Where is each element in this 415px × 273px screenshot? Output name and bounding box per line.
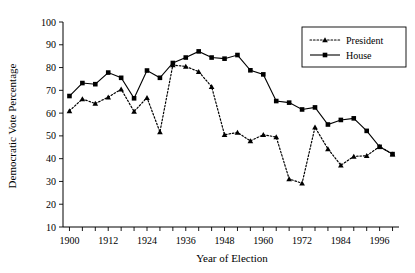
legend-box [302,27,406,67]
legend-label-president: President [346,35,383,46]
series-plot-area [67,49,396,185]
data-point [300,107,305,112]
data-point [196,49,201,54]
data-point [222,56,227,61]
data-point [106,70,111,75]
x-tick-label: 1984 [331,235,351,246]
data-point [364,129,369,134]
data-point [287,100,292,105]
data-point [390,152,395,157]
data-point [274,99,279,104]
x-tick-label: 1912 [98,235,118,246]
data-point [351,116,356,121]
y-tick-label: 50 [46,130,56,141]
legend-label-house: House [346,50,372,61]
data-point [351,154,357,159]
y-tick-label: 100 [41,17,56,28]
data-point [105,94,111,99]
data-point [80,81,85,86]
data-point [261,72,266,77]
y-tick-label: 70 [46,85,56,96]
data-point [286,176,292,181]
data-point [67,108,73,113]
data-point [377,145,382,150]
x-tick-label: 1900 [59,235,79,246]
y-tick-label: 90 [46,39,56,50]
y-tick-label: 80 [46,62,56,73]
data-point [158,76,163,81]
x-tick-label: 1924 [137,235,157,246]
election-vote-line-chart: 102030405060708090100 190019121924193619… [0,0,415,273]
data-point [93,82,98,87]
y-tick-label: 20 [46,199,56,210]
y-tick-label: 40 [46,153,56,164]
x-tick-label: 1948 [215,235,235,246]
data-point [299,181,305,186]
data-point [313,105,318,110]
data-point [235,53,240,58]
data-point [157,129,163,134]
data-point [209,84,215,89]
data-point [119,76,124,81]
data-point [312,125,318,130]
data-point [145,68,150,73]
x-tick-label: 1996 [370,235,390,246]
x-tick-label: 1936 [176,235,196,246]
data-point [260,132,266,137]
data-point [132,96,137,101]
data-point [144,95,150,100]
series-line-president [69,65,392,183]
chart-legend: PresidentHouse [302,27,406,67]
data-point [67,94,72,99]
y-tick-label: 60 [46,108,56,119]
data-point [209,55,214,60]
y-tick-label: 30 [46,176,56,187]
series-president [67,62,396,185]
x-axis: 190019121924193619481960197219841996 [59,227,399,246]
y-axis-title: Democratic Vote Percentage [6,63,18,188]
x-tick-label: 1972 [292,235,312,246]
x-axis-title: Year of Election [196,252,268,264]
data-point [171,61,176,66]
legend-marker-house [323,53,328,58]
data-point [183,55,188,60]
x-tick-label: 1960 [253,235,273,246]
chart-container: 102030405060708090100 190019121924193619… [0,0,415,273]
y-axis: 102030405060708090100 [41,17,63,233]
data-point [118,86,124,91]
data-point [80,96,86,101]
y-tick-label: 10 [46,222,56,233]
data-point [325,146,331,151]
data-point [326,122,331,127]
data-point [248,68,253,73]
data-point [339,118,344,123]
